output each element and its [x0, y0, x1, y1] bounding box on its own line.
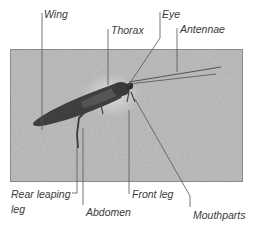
label-front-leg: Front leg [132, 188, 173, 200]
label-rear-leaping-leg: Rear leaping [11, 188, 71, 200]
label-mouthparts: Mouthparts [193, 209, 246, 221]
label-antennae: Antennae [180, 23, 225, 35]
label-abdomen: Abdomen [86, 206, 131, 218]
label-thorax: Thorax [111, 24, 144, 36]
label-rear-leaping-leg-cont: leg [11, 203, 25, 215]
label-eye: Eye [162, 8, 180, 20]
label-wing: Wing [44, 8, 68, 20]
